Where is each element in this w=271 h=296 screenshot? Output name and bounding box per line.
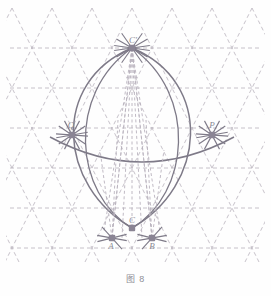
lattice-diagonal-left (72, 8, 212, 288)
lattice-diagonal-left (0, 8, 92, 288)
construction-ray-from-a (112, 120, 118, 238)
point-p: P (208, 120, 215, 138)
point-label-a: A (107, 241, 114, 251)
construction-ray-from-a (100, 150, 112, 238)
lattice-diagonal-left (232, 8, 271, 288)
solid-curves (50, 48, 234, 228)
lattice-diagonal-left (0, 8, 12, 288)
point-label-c-prime: C' (129, 35, 138, 45)
point-q: Q (68, 120, 75, 138)
lattice-diagonal-left (192, 8, 271, 288)
lattice-diagonal-right (252, 8, 271, 288)
point-b: B (149, 235, 155, 251)
point-c: C (129, 215, 136, 231)
construction-ray-from-c-prime (132, 48, 142, 238)
point-marker (69, 132, 75, 138)
point-marker (129, 225, 135, 231)
point-label-b: B (149, 241, 155, 251)
lattice-diagonal-right (0, 8, 32, 288)
construction-ray-from-a (112, 48, 132, 238)
construction-ray-from-c-prime (122, 48, 132, 238)
figure-caption: 图 8 (0, 272, 271, 285)
point-marker (209, 132, 215, 138)
point-label-p: P (208, 120, 215, 130)
lattice-diagonal-right (172, 8, 271, 288)
construction-ray-from-b (146, 120, 152, 238)
lattice-diagonal-left (0, 8, 52, 288)
point-label-c: C (129, 215, 136, 225)
lattice-diagonal-right (0, 8, 112, 288)
point-marker (129, 45, 135, 51)
figure-container: C'QPCAB 图 8 (0, 0, 271, 296)
geometry-diagram: C'QPCAB (0, 0, 271, 296)
point-label-q: Q (68, 120, 75, 130)
construction-ray-from-b (132, 48, 152, 238)
construction-ray-from-b (152, 150, 164, 238)
